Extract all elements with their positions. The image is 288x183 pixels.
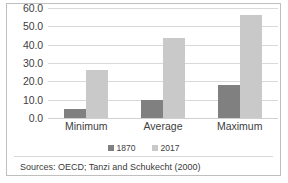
x-axis-category-label: Minimum xyxy=(48,120,125,132)
y-axis-tick-label: 10.0 xyxy=(23,94,43,106)
bar xyxy=(218,85,240,118)
source-note: Sources: OECD; Tanzi and Schukecht (2000… xyxy=(20,162,200,172)
x-axis-category-labels: MinimumAverageMaximum xyxy=(48,120,278,132)
plot-wrapper: 0.010.020.030.040.050.060.0 MinimumAvera… xyxy=(14,8,278,138)
axis-baseline xyxy=(48,118,278,119)
bar xyxy=(141,100,163,118)
footnote-divider xyxy=(14,156,273,157)
legend-label: 2017 xyxy=(161,143,180,153)
bar-group xyxy=(48,8,125,118)
bar xyxy=(240,15,262,118)
legend-item[interactable]: 2017 xyxy=(152,143,180,153)
chart-frame: 0.010.020.030.040.050.060.0 MinimumAvera… xyxy=(6,3,281,176)
legend-item[interactable]: 1870 xyxy=(108,143,136,153)
bar xyxy=(64,109,86,118)
y-axis-tick-label: 0.0 xyxy=(29,112,43,124)
y-axis-tick-label: 40.0 xyxy=(23,39,43,51)
bar-group xyxy=(125,8,202,118)
bar xyxy=(163,38,185,118)
plot-area xyxy=(48,8,278,118)
legend-label: 1870 xyxy=(117,143,136,153)
x-axis-category-label: Average xyxy=(125,120,202,132)
x-axis-category-label: Maximum xyxy=(201,120,278,132)
bar-groups xyxy=(48,8,278,118)
legend-swatch-icon xyxy=(152,145,158,151)
chart-legend: 18702017 xyxy=(7,143,280,153)
y-axis-tick-label: 30.0 xyxy=(23,57,43,69)
bar xyxy=(86,70,108,118)
y-axis-tick-label: 50.0 xyxy=(23,20,43,32)
legend-swatch-icon xyxy=(108,145,114,151)
y-axis-tick-label: 60.0 xyxy=(23,2,43,14)
bar-group xyxy=(201,8,278,118)
y-axis-tick-labels: 0.010.020.030.040.050.060.0 xyxy=(14,8,46,118)
y-axis-tick-label: 20.0 xyxy=(23,75,43,87)
chart-figure: 0.010.020.030.040.050.060.0 MinimumAvera… xyxy=(0,0,288,183)
